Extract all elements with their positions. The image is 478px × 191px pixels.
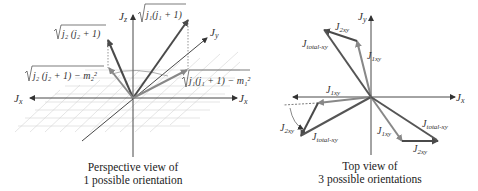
j1xy-label-lower: J1xy	[377, 125, 392, 138]
j1xy-label-upper: J1xy	[367, 50, 382, 63]
j2xy-label-left: J2xy	[280, 122, 295, 135]
top-view: Jy Jx J2xy Jtotal-xy J1xy J1xy J2xy Jtot…	[280, 10, 465, 156]
j1-magnitude-label: j₁(j₁ + 1)	[138, 4, 186, 22]
perspective-caption: Perspective view of 1 possible orientati…	[73, 161, 193, 187]
jx-right-label: Jx	[239, 92, 248, 106]
svg-text:j₂ (j₂ + 1): j₂ (j₂ + 1)	[60, 28, 101, 40]
j1-vector	[133, 20, 188, 98]
svg-text:j₂ (j₂ + 1) − m₂²: j₂ (j₂ + 1) − m₂²	[31, 70, 98, 82]
jy-top-label: Jy	[358, 10, 367, 24]
svg-text:j₁(j₁ + 1) − m₁²: j₁(j₁ + 1) − m₁²	[187, 75, 251, 87]
jtotal-label-lower: Jtotal-xy	[422, 118, 449, 131]
jtotal-label-left: Jtotal-xy	[312, 131, 339, 144]
j1-projection-label: j₁(j₁ + 1) − m₁²	[182, 70, 251, 87]
orientation-left	[283, 97, 371, 136]
jy-label: Jy	[210, 26, 219, 40]
jz-label: Jz	[119, 10, 128, 24]
top-view-caption-line2: 3 possible orientations	[310, 173, 430, 186]
j2-projection-label: j₂ (j₂ + 1) − m₂²	[25, 66, 104, 82]
top-view-caption: Top view of 3 possible orientations	[310, 160, 430, 186]
j2xy-label-upper: J2xy	[335, 21, 350, 34]
top-view-caption-line1: Top view of	[310, 160, 430, 173]
j2-magnitude-label: j₂ (j₂ + 1)	[54, 25, 106, 40]
jx-left-label: Jx	[14, 92, 23, 106]
orientation-upper	[324, 30, 371, 97]
jx-top-label: Jx	[456, 91, 465, 105]
perspective-caption-line2: 1 possible orientation	[73, 174, 193, 187]
jtotal-label-upper: Jtotal-xy	[302, 38, 329, 51]
svg-text:j₁(j₁ + 1): j₁(j₁ + 1)	[144, 9, 183, 21]
j1xy-label-left: J1xy	[326, 84, 341, 97]
perspective-caption-line1: Perspective view of	[73, 161, 193, 174]
perspective-view: Jz Jy Jx Jx j₁(j₁ + 1) j₂ (j₂ + 1) j₂ (j…	[14, 4, 251, 157]
j2xy-label-lower: J2xy	[413, 143, 428, 156]
j2-vector	[108, 40, 133, 98]
